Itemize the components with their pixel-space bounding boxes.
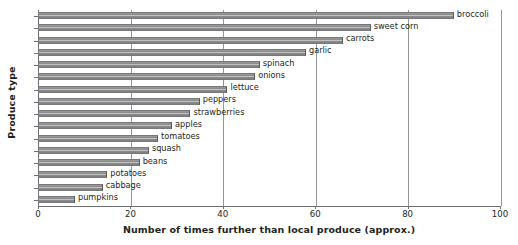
- bar-label: peppers: [203, 94, 236, 104]
- x-axis-title: Number of times further than local produ…: [38, 224, 500, 235]
- bar-row: lettuce: [38, 84, 500, 96]
- x-tick-label: 40: [217, 209, 228, 219]
- y-axis-title-text: Produce type: [6, 66, 17, 138]
- bar-label: apples: [175, 119, 202, 129]
- grid-line: [501, 10, 502, 206]
- x-tick-label: 20: [125, 209, 136, 219]
- bar-label: pumpkins: [78, 192, 118, 202]
- bar-row: pumpkins: [38, 194, 500, 206]
- bar-row: sweet corn: [38, 22, 500, 34]
- bar[interactable]: [38, 12, 454, 19]
- bar-row: onions: [38, 71, 500, 83]
- bars-layer: broccolisweet corncarrotsgarlicspinachon…: [38, 10, 500, 206]
- bar[interactable]: [38, 159, 140, 166]
- bar[interactable]: [38, 122, 172, 129]
- y-axis-title: Produce type: [0, 0, 22, 205]
- bar-row: beans: [38, 157, 500, 169]
- bar[interactable]: [38, 147, 149, 154]
- bar-label: tomatoes: [161, 131, 200, 141]
- bar[interactable]: [38, 86, 227, 93]
- bar-label: squash: [152, 143, 181, 153]
- bar-row: squash: [38, 145, 500, 157]
- bar-row: carrots: [38, 35, 500, 47]
- bar-row: tomatoes: [38, 133, 500, 145]
- bar-label: onions: [258, 70, 285, 80]
- x-tick-label: 80: [402, 209, 413, 219]
- bar[interactable]: [38, 73, 255, 80]
- bar-label: strawberries: [193, 107, 244, 117]
- bar[interactable]: [38, 49, 306, 56]
- bar[interactable]: [38, 37, 343, 44]
- bar[interactable]: [38, 98, 200, 105]
- bar[interactable]: [38, 110, 190, 117]
- bar-label: lettuce: [230, 82, 258, 92]
- bar-row: broccoli: [38, 10, 500, 22]
- bar-label: sweet corn: [374, 21, 419, 31]
- bar[interactable]: [38, 171, 107, 178]
- x-tick-label: 0: [35, 209, 40, 219]
- bar[interactable]: [38, 61, 260, 68]
- x-tick-label: 60: [310, 209, 321, 219]
- bar-row: peppers: [38, 96, 500, 108]
- bar-label: spinach: [263, 58, 295, 68]
- bar-label: potatoes: [110, 168, 146, 178]
- bar-row: strawberries: [38, 108, 500, 120]
- bar-label: broccoli: [457, 9, 489, 19]
- bar-label: beans: [143, 156, 168, 166]
- bar-label: cabbage: [106, 180, 141, 190]
- bar[interactable]: [38, 196, 75, 203]
- x-tick-label: 100: [492, 209, 508, 219]
- bar-label: garlic: [309, 45, 332, 55]
- bar[interactable]: [38, 135, 158, 142]
- bar[interactable]: [38, 24, 371, 31]
- bar-chart: Produce type broccolisweet corncarrotsga…: [0, 0, 518, 245]
- bar-label: carrots: [346, 33, 374, 43]
- bar-row: apples: [38, 120, 500, 132]
- bar[interactable]: [38, 184, 103, 191]
